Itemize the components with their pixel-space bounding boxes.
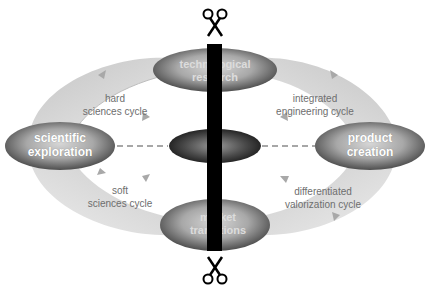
label-scientific-exploration: scientific exploration xyxy=(8,132,112,160)
label-soft-sciences-cycle: soft sciences cycle xyxy=(75,185,165,210)
label-hard-sciences-cycle: hard sciences cycle xyxy=(70,93,160,118)
scissors-icon xyxy=(204,257,227,284)
cut-bar-overlay xyxy=(207,44,222,251)
scissors-icon xyxy=(204,10,227,37)
label-integrated-engineering-cycle: integrated engineering cycle xyxy=(265,93,365,118)
label-product-creation: product creation xyxy=(318,132,422,160)
label-differentiated-valorization-cycle: differentiated valorization cycle xyxy=(268,186,378,211)
